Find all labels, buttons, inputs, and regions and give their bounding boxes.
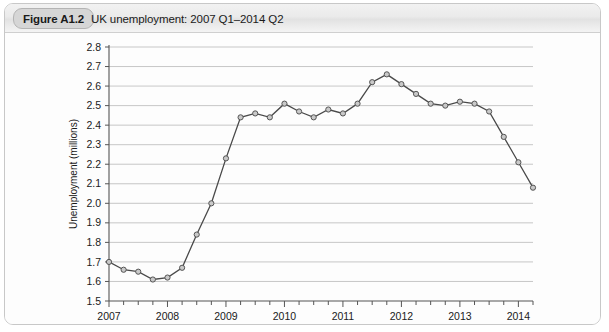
data-point-marker (106, 259, 111, 264)
y-tick-label: 2.8 (86, 41, 101, 53)
data-point-marker (150, 277, 155, 282)
unemployment-line-chart: 1.51.61.71.81.92.02.12.22.32.42.52.62.72… (5, 33, 601, 325)
y-tick-label: 2.1 (86, 177, 101, 189)
y-tick-label: 1.5 (86, 295, 101, 307)
x-tick-label: 2008 (156, 310, 180, 322)
data-point-marker (428, 101, 433, 106)
figure-card: Figure A1.2 UK unemployment: 2007 Q1–201… (4, 3, 601, 325)
y-tick-label: 2.6 (86, 80, 101, 92)
y-tick-label: 1.6 (86, 275, 101, 287)
data-point-marker (472, 101, 477, 106)
data-point-marker (194, 232, 199, 237)
data-point-marker (282, 101, 287, 106)
data-point-marker (165, 275, 170, 280)
data-point-marker (340, 111, 345, 116)
data-point-marker (238, 115, 243, 120)
data-point-marker (223, 156, 228, 161)
data-point-marker (399, 82, 404, 87)
data-point-marker (253, 111, 258, 116)
x-tick-label: 2010 (273, 310, 297, 322)
data-point-marker (311, 115, 316, 120)
x-tick-label: 2013 (448, 310, 472, 322)
data-point-marker (355, 101, 360, 106)
data-point-marker (267, 115, 272, 120)
y-tick-label: 2.7 (86, 60, 101, 72)
data-point-marker (443, 103, 448, 108)
data-point-marker (296, 109, 301, 114)
x-tick-label: 2014 (507, 310, 531, 322)
series-line (109, 74, 533, 279)
data-point-marker (326, 107, 331, 112)
y-tick-label: 2.5 (86, 99, 101, 111)
data-point-marker (487, 109, 492, 114)
data-point-marker (136, 269, 141, 274)
y-tick-label: 2.0 (86, 197, 101, 209)
x-tick-label: 2009 (214, 310, 238, 322)
data-point-marker (530, 185, 535, 190)
data-point-marker (180, 265, 185, 270)
data-point-marker (413, 91, 418, 96)
figure-header: Figure A1.2 UK unemployment: 2007 Q1–201… (5, 4, 600, 33)
data-point-marker (121, 267, 126, 272)
y-tick-label: 1.7 (86, 256, 101, 268)
chart-plot-area: 1.51.61.71.81.92.02.12.22.32.42.52.62.72… (5, 33, 601, 325)
y-tick-label: 2.3 (86, 138, 101, 150)
data-point-marker (516, 160, 521, 165)
data-point-marker (501, 134, 506, 139)
x-tick-label: 2012 (390, 310, 414, 322)
y-axis-title: Unemployment (millions) (68, 119, 79, 229)
data-point-marker (457, 99, 462, 104)
data-point-marker (370, 80, 375, 85)
data-point-marker (384, 72, 389, 77)
y-tick-label: 1.9 (86, 216, 101, 228)
y-tick-label: 2.4 (86, 119, 101, 131)
x-tick-label: 2011 (332, 310, 355, 322)
figure-title: UK unemployment: 2007 Q1–2014 Q2 (91, 4, 283, 33)
y-tick-label: 1.8 (86, 236, 101, 248)
figure-badge: Figure A1.2 (13, 8, 94, 29)
x-tick-label: 2007 (97, 310, 121, 322)
y-tick-label: 2.2 (86, 158, 101, 170)
data-point-marker (209, 201, 214, 206)
